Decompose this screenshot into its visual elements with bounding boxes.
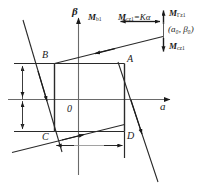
shallow-slope-line-lower [12, 125, 125, 153]
label-moment-z1-top-base: M [169, 8, 177, 18]
axis-label-alpha: a [160, 101, 166, 112]
label-moment-cz1-bottom-base: M [169, 41, 177, 51]
point-label-C: C [42, 132, 49, 142]
label-moment-z1-top-sub: Γz1 [177, 12, 186, 18]
label-moment-b1-sub: b1 [96, 16, 102, 22]
origin-label: 0 [67, 104, 72, 114]
hysteresis-loop [55, 64, 125, 132]
figure-canvas: β a 0 B A C D Mb1 Mcz1=Kα MΓz1 (a₀, β₀) … [0, 0, 206, 188]
label-moment-cz1-bottom: Mcz1 [169, 42, 185, 52]
axis-label-beta: β [72, 6, 78, 17]
label-moment-cz1-equals: =K [134, 12, 146, 22]
point-label-B: B [42, 50, 48, 60]
label-moment-z1-top: MΓz1 [169, 9, 186, 19]
shallow-slope-line-upper [55, 37, 164, 64]
label-moment-cz1-sub: cz1 [126, 16, 134, 22]
label-moment-cz1-base: M [118, 12, 126, 22]
label-moment-cz1-equation: Mcz1=Kα [118, 13, 151, 23]
point-label-D: D [127, 131, 134, 141]
label-coordinate-point: (a₀, β₀) [168, 25, 194, 34]
label-moment-cz1-bottom-sub: cz1 [177, 45, 185, 51]
label-moment-b1: Mb1 [88, 13, 102, 23]
label-moment-cz1-alpha: α [146, 12, 151, 22]
label-moment-b1-base: M [88, 12, 96, 22]
point-label-A: A [127, 54, 133, 64]
